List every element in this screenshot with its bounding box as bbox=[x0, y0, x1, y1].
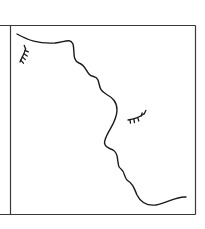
background bbox=[0, 0, 205, 229]
two-profiles-illustration bbox=[0, 0, 205, 229]
